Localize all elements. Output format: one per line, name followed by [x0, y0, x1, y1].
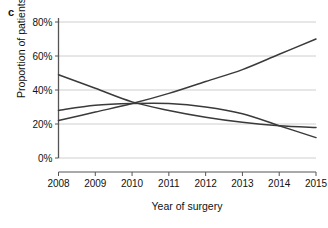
x-tick-label: 2014 [268, 178, 291, 189]
y-tick-label: 40% [32, 85, 52, 96]
x-tick-label: 2010 [121, 178, 144, 189]
series-line-rising [59, 39, 317, 121]
x-tick-label: 2008 [47, 178, 70, 189]
y-tick-label: 80% [32, 17, 52, 28]
data-series-group [59, 39, 317, 138]
figure-panel-c: c Proportion of patients Year of surgery… [0, 0, 328, 228]
x-tick-label: 2012 [195, 178, 218, 189]
x-tick-label: 2009 [84, 178, 107, 189]
y-tick-label: 0% [38, 153, 53, 164]
y-tick-label: 20% [32, 119, 52, 130]
gridlines [59, 22, 317, 158]
y-axis-ticks: 0%20%40%60%80% [32, 17, 52, 164]
x-axis-ticks: 20082009201020112012201320142015 [47, 178, 327, 189]
x-tick-label: 2013 [231, 178, 254, 189]
axis-lines [55, 18, 316, 176]
line-chart: 0%20%40%60%80% 2008200920102011201220132… [0, 0, 328, 228]
series-line-flat-then-declining [59, 103, 317, 137]
x-tick-label: 2011 [158, 178, 180, 189]
y-tick-label: 60% [32, 51, 52, 62]
series-line-declining [59, 75, 317, 128]
x-tick-label: 2015 [305, 178, 328, 189]
